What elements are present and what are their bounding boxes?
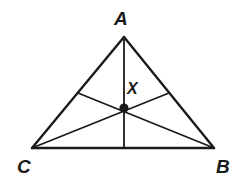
centroid-point-dot	[119, 103, 128, 112]
vertex-label-c: C	[17, 157, 31, 176]
vertex-label-b: B	[216, 157, 230, 176]
interior-point-label-x: X	[127, 81, 138, 97]
vertex-label-a: A	[114, 9, 128, 28]
segments-group	[32, 37, 214, 148]
geometry-figure: A C B X	[0, 0, 245, 183]
